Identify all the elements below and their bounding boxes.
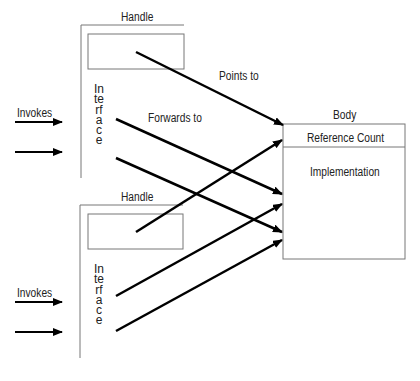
invoke-arrows <box>15 122 62 332</box>
interface-top-label: Interface <box>94 84 104 146</box>
handle-top-pointer-box <box>88 34 184 69</box>
handle-bottom-label: Handle <box>121 190 153 204</box>
points-to-label: Points to <box>219 69 259 83</box>
diagram-graphics <box>0 0 420 381</box>
implementation-label: Implementation <box>310 165 380 179</box>
points-to-arrow-bottom <box>136 140 282 232</box>
handle-bottom-pointer-box <box>88 214 183 249</box>
body-label: Body <box>333 108 356 122</box>
reference-count-label: Reference Count <box>307 131 384 145</box>
invokes-bottom-label: Invokes <box>17 286 52 300</box>
interface-bottom-label: Interface <box>94 264 104 326</box>
forwards-to-label: Forwards to <box>148 111 202 125</box>
forwards-to-arrow-bottom-1 <box>116 204 282 296</box>
forwards-to-arrow-bottom-2 <box>116 240 282 331</box>
invokes-top-label: Invokes <box>17 106 52 120</box>
handle-top-label: Handle <box>121 10 153 24</box>
handle-body-diagram: Handle Handle Invokes Invokes Interface … <box>0 0 420 381</box>
